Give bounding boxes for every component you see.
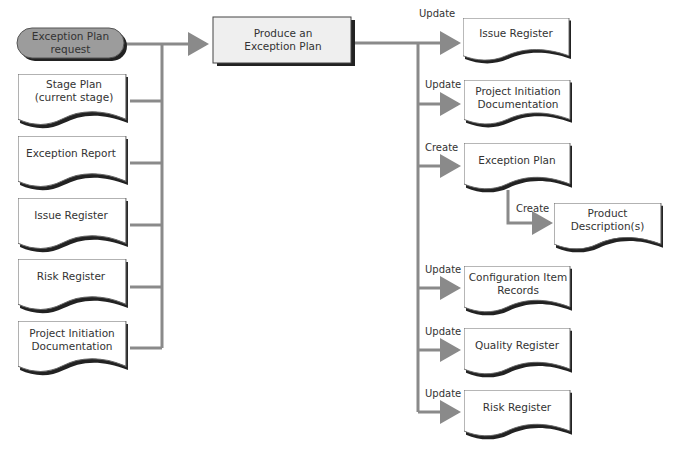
output-risk-register: Risk Register	[464, 390, 570, 424]
output-issue-register: Issue Register	[463, 18, 569, 48]
input-risk-register: Risk Register	[18, 259, 124, 293]
edge-label-update: Update	[425, 79, 461, 90]
edge-label-update: Update	[425, 388, 461, 399]
input-issue-register: Issue Register	[18, 198, 124, 232]
input-stage-plan: Stage Plan (current stage)	[30, 74, 118, 108]
output-quality-register: Quality Register	[464, 328, 570, 362]
exception-plan-request-trigger: Exception Plan request	[17, 28, 124, 58]
edge-label-create: Create	[425, 142, 458, 153]
edge-label-update: Update	[425, 264, 461, 275]
output-product-descriptions: Product Description(s)	[554, 203, 661, 237]
produce-exception-plan-activity: Produce an Exception Plan	[240, 17, 326, 63]
input-exception-report: Exception Report	[18, 136, 124, 170]
output-project-initiation-documentation: Project Initiation Documentation	[468, 80, 568, 116]
output-exception-plan: Exception Plan	[464, 143, 570, 177]
output-configuration-item-records: Configuration Item Records	[468, 266, 568, 302]
input-project-initiation-documentation: Project Initiation Documentation	[24, 321, 120, 359]
edge-label-create: Create	[516, 203, 549, 214]
edge-label-update: Update	[419, 8, 455, 19]
edge-label-update: Update	[425, 326, 461, 337]
